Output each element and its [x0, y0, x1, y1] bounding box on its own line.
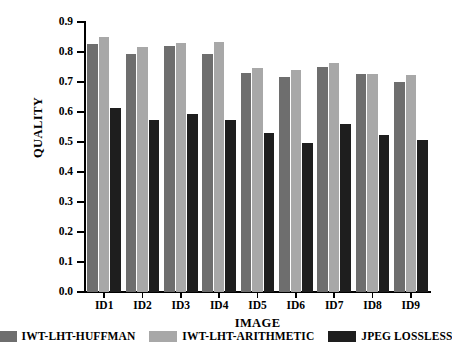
- x-axis-tick: [180, 292, 181, 298]
- y-axis-tick: [77, 201, 85, 202]
- y-axis-tick-label: 0.9: [33, 16, 73, 28]
- bar: [187, 114, 198, 292]
- y-axis-tick-label: 0.3: [33, 196, 73, 208]
- y-axis-tick: [77, 231, 85, 232]
- y-axis-tick: [77, 141, 85, 142]
- x-axis-tick: [295, 292, 296, 298]
- bar: [110, 108, 121, 293]
- y-axis-tick: [77, 81, 85, 82]
- bar: [367, 74, 378, 292]
- y-axis-tick-label: 0.6: [33, 106, 73, 118]
- bar: [164, 46, 175, 292]
- bar: [252, 68, 263, 292]
- x-axis-tick: [103, 292, 104, 298]
- legend-swatch: [328, 331, 356, 342]
- bar: [264, 133, 275, 292]
- y-axis-tick: [77, 261, 85, 262]
- bars-layer: [85, 22, 430, 292]
- y-axis-tick: [77, 291, 85, 292]
- legend-entry[interactable]: IWT-LHT-HUFFMAN: [0, 330, 135, 342]
- bar: [317, 67, 328, 292]
- legend-label: JPEG LOSSLESS: [361, 330, 452, 342]
- bar: [137, 47, 148, 292]
- bar: [417, 140, 428, 292]
- y-axis-tick-label: 0.8: [33, 46, 73, 58]
- bar: [394, 82, 405, 292]
- bar: [214, 42, 225, 292]
- legend-swatch: [149, 331, 177, 342]
- y-axis-tick-label: 0.1: [33, 256, 73, 268]
- y-axis-tick-label: 0.7: [33, 76, 73, 88]
- y-axis-tick: [77, 21, 85, 22]
- x-axis-tick: [142, 292, 143, 298]
- bar: [291, 70, 302, 292]
- x-axis-tick: [372, 292, 373, 298]
- legend-swatch: [0, 331, 17, 342]
- x-axis-tick: [218, 292, 219, 298]
- y-axis-tick-label: 0.0: [33, 286, 73, 298]
- x-axis-tick: [410, 292, 411, 298]
- bar: [202, 54, 213, 292]
- y-axis-tick-label: 0.5: [33, 136, 73, 148]
- legend-entry[interactable]: IWT-LHT-ARITHMETIC: [149, 330, 314, 342]
- bar: [149, 120, 160, 292]
- legend-entry[interactable]: JPEG LOSSLESS: [328, 330, 452, 342]
- bar: [329, 63, 340, 292]
- bar: [279, 77, 290, 292]
- x-axis-tick-label: ID9: [381, 300, 441, 312]
- bar: [126, 54, 137, 292]
- bar: [87, 44, 98, 292]
- y-axis-tick-label: 0.4: [33, 166, 73, 178]
- chart-legend: IWT-LHT-HUFFMANIWT-LHT-ARITHMETICJPEG LO…: [0, 330, 441, 342]
- bar: [241, 73, 252, 292]
- bar: [99, 37, 110, 292]
- y-axis-tick-label: 0.2: [33, 226, 73, 238]
- bar: [356, 74, 367, 292]
- y-axis-tick: [77, 171, 85, 172]
- bar: [406, 75, 417, 292]
- legend-label: IWT-LHT-ARITHMETIC: [182, 330, 314, 342]
- y-axis-tick: [77, 51, 85, 52]
- bar: [379, 135, 390, 292]
- bar: [302, 143, 313, 292]
- bar: [225, 120, 236, 292]
- x-axis-tick: [257, 292, 258, 298]
- x-axis-tick: [333, 292, 334, 298]
- x-axis-title: IMAGE: [85, 316, 430, 331]
- legend-label: IWT-LHT-HUFFMAN: [22, 330, 136, 342]
- bar: [340, 124, 351, 292]
- bar: [176, 43, 187, 292]
- y-axis-tick: [77, 111, 85, 112]
